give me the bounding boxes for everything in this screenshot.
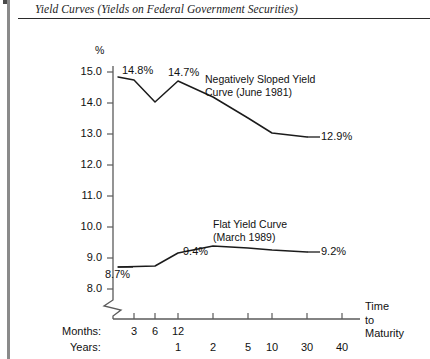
annotation-1989: Flat Yield Curve (March 1989) xyxy=(213,218,287,243)
y-tick-marks xyxy=(107,72,113,289)
y-tick-label-14: 14.0 xyxy=(70,96,102,108)
x-tick-label-years-10: 10 xyxy=(260,341,284,353)
point-label-1989-mid: 9.4% xyxy=(183,245,208,257)
x-tick-label-years-5: 5 xyxy=(236,341,260,353)
annotation-1989-line2: (March 1989) xyxy=(213,231,287,244)
series-line-1989 xyxy=(118,246,307,267)
point-label-1989-start: 8.7% xyxy=(105,268,130,280)
plot-area: % 15.0 14.0 13.0 12.0 11.0 10.0 9.0 8.0 … xyxy=(0,0,430,359)
x-row-label-years: Years: xyxy=(70,341,101,353)
y-tick-label-11: 11.0 xyxy=(70,189,102,201)
x-axis-caption-line1: Time xyxy=(365,300,404,314)
point-label-1981-end: 12.9% xyxy=(321,130,352,142)
y-tick-label-15: 15.0 xyxy=(70,65,102,77)
x-tick-label-years-30: 30 xyxy=(295,341,319,353)
x-tick-label-months-6: 6 xyxy=(143,325,167,337)
x-row-label-months: Months: xyxy=(62,325,101,337)
chart-page: Yield Curves (Yields on Federal Governme… xyxy=(0,0,430,359)
point-label-1981-start: 14.8% xyxy=(122,64,153,76)
x-axis-caption-line3: Maturity xyxy=(365,327,404,341)
y-tick-label-13: 13.0 xyxy=(70,127,102,139)
annotation-1981-line2: Curve (June 1981) xyxy=(205,86,315,99)
y-tick-label-10: 10.0 xyxy=(70,220,102,232)
annotation-1989-line1: Flat Yield Curve xyxy=(213,218,287,231)
y-tick-label-9: 9.0 xyxy=(70,251,102,263)
x-tick-marks xyxy=(134,313,342,319)
point-label-1989-end: 9.2% xyxy=(321,245,346,257)
y-axis-unit-label: % xyxy=(95,44,104,56)
annotation-1981-line1: Negatively Sloped Yield xyxy=(205,73,315,86)
annotation-1981: Negatively Sloped Yield Curve (June 1981… xyxy=(205,73,315,98)
y-axis-break-icon xyxy=(104,295,121,319)
point-label-1981-peak: 14.7% xyxy=(168,66,199,78)
x-tick-label-years-1: 1 xyxy=(166,341,190,353)
x-tick-label-years-40: 40 xyxy=(330,341,354,353)
x-tick-label-years-2: 2 xyxy=(201,341,225,353)
y-tick-label-8: 8.0 xyxy=(70,282,102,294)
y-tick-label-12: 12.0 xyxy=(70,158,102,170)
x-axis-caption-line2: to xyxy=(365,314,404,328)
x-tick-label-months-12: 12 xyxy=(166,325,190,337)
x-axis-caption: Time to Maturity xyxy=(365,300,404,341)
